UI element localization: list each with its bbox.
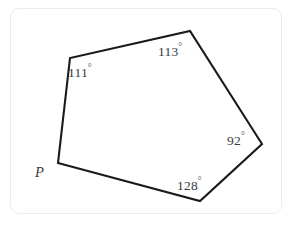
- angle-value-92: 92: [227, 133, 241, 148]
- pentagon-svg: [0, 0, 294, 230]
- vertex-label-P: P: [35, 165, 44, 180]
- angle-value-128: 128: [177, 178, 198, 193]
- degree-sign-92: °: [241, 131, 245, 141]
- angle-label-92: 92°: [227, 132, 245, 147]
- angle-label-113: 113°: [158, 43, 182, 58]
- angle-value-111: 111: [68, 65, 88, 80]
- degree-sign-128: °: [198, 176, 202, 186]
- angle-label-111: 111°: [68, 64, 92, 79]
- figure-canvas: 111° 113° 92° 128° P: [0, 0, 294, 230]
- degree-sign-111: °: [88, 63, 92, 73]
- angle-value-113: 113: [158, 44, 178, 59]
- angle-label-128: 128°: [177, 177, 202, 192]
- degree-sign-113: °: [178, 42, 182, 52]
